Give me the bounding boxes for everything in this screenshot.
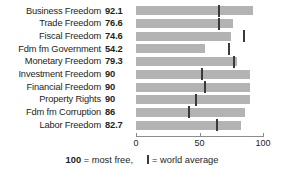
plot-area (136, 43, 263, 56)
world-average-tick-icon (201, 68, 203, 80)
world-average-tick-icon (243, 30, 245, 42)
value-label: 76.6 (105, 17, 123, 30)
plot-area (136, 55, 263, 68)
value-label: 90 (105, 68, 115, 81)
plot-area (136, 17, 263, 30)
value-bar (136, 121, 241, 130)
plot-area (136, 30, 263, 43)
plot-area (136, 119, 263, 132)
axis-tick-label: 100 (248, 138, 278, 149)
plot-area (136, 68, 263, 81)
world-average-tick-icon (228, 43, 230, 55)
category-label: Fiscal Freedom (0, 30, 101, 43)
value-label: 86 (105, 106, 115, 119)
legend-most-free-text: = most free, (84, 155, 133, 165)
value-bar (136, 44, 205, 53)
world-average-tick-icon (147, 155, 149, 164)
value-label: 74.6 (105, 30, 123, 43)
chart-legend: 100 = most free,= world average (0, 153, 284, 167)
value-label: 79.3 (105, 55, 123, 68)
legend-most-free-number: 100 (66, 155, 82, 165)
value-label: 82.7 (105, 119, 123, 132)
world-average-tick-icon (188, 106, 190, 118)
freedom-index-bar-chart: Business Freedom92.1Trade Freedom76.6Fis… (0, 0, 284, 173)
plot-area (136, 93, 263, 106)
value-bar (136, 83, 250, 92)
value-bar (136, 95, 250, 104)
world-average-tick-icon (195, 94, 197, 106)
chart-row: Business Freedom92.1 (0, 5, 284, 18)
axis-tick (200, 133, 201, 137)
axis-tick (263, 133, 264, 137)
category-label: Investment Freedom (0, 68, 101, 81)
value-bar (136, 108, 245, 117)
category-label: Trade Freedom (0, 17, 101, 30)
category-label: Property Rights (0, 93, 101, 106)
chart-row: Property Rights90 (0, 93, 284, 106)
plot-area (136, 81, 263, 94)
world-average-tick-icon (218, 5, 220, 17)
value-bar (136, 70, 250, 79)
category-label: Labor Freedom (0, 119, 101, 132)
plot-area (136, 5, 263, 18)
axis-tick-label: 0 (121, 138, 151, 149)
chart-row: Fdm fm Corruption86 (0, 106, 284, 119)
value-bar (136, 32, 231, 41)
value-bar (136, 6, 253, 15)
axis-tick (136, 133, 137, 137)
chart-row: Labor Freedom82.7 (0, 119, 284, 132)
chart-row: Trade Freedom76.6 (0, 17, 284, 30)
category-label: Fdm fm Government (0, 43, 101, 56)
world-average-tick-icon (216, 119, 218, 131)
chart-row: Investment Freedom90 (0, 68, 284, 81)
chart-row: Fdm fm Government54.2 (0, 43, 284, 56)
value-label: 92.1 (105, 5, 123, 18)
value-label: 54.2 (105, 43, 123, 56)
chart-row: Monetary Freedom79.3 (0, 55, 284, 68)
value-label: 90 (105, 81, 115, 94)
value-label: 90 (105, 93, 115, 106)
category-label: Business Freedom (0, 5, 101, 18)
world-average-tick-icon (218, 18, 220, 30)
legend-world-average-text: = world average (152, 155, 218, 165)
category-label: Monetary Freedom (0, 55, 101, 68)
plot-area (136, 106, 263, 119)
category-label: Fdm fm Corruption (0, 106, 101, 119)
axis-tick-label: 50 (185, 138, 215, 149)
chart-row: Fiscal Freedom74.6 (0, 30, 284, 43)
category-label: Financial Freedom (0, 81, 101, 94)
chart-row: Financial Freedom90 (0, 81, 284, 94)
value-bar (136, 57, 237, 66)
world-average-tick-icon (204, 81, 206, 93)
world-average-tick-icon (233, 56, 235, 68)
